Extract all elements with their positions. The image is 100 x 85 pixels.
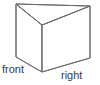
label-right: right	[61, 70, 82, 81]
prism-figure: front right	[0, 0, 100, 85]
label-front: front	[2, 64, 24, 75]
